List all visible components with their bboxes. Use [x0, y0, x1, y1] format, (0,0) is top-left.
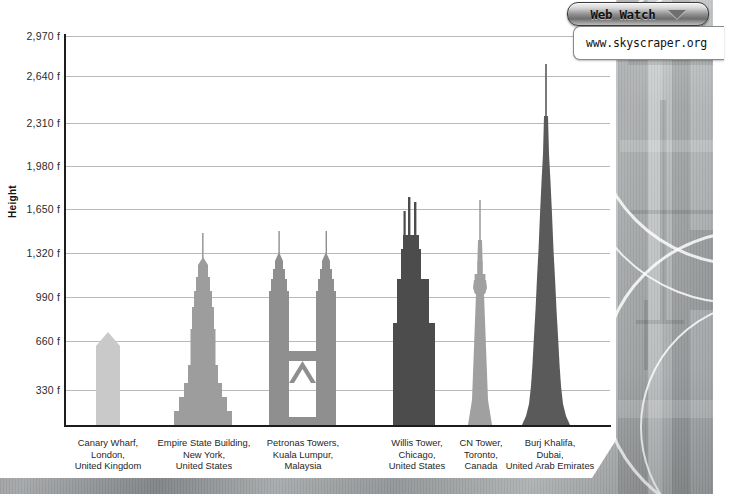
x-label-line: Empire State Building, — [148, 437, 260, 449]
web-watch-label: Web Watch — [590, 7, 655, 22]
x-label-petronas-towers: Petronas Towers, Kuala Lumpur, Malaysia — [253, 437, 353, 472]
x-axis-line — [64, 425, 611, 427]
chart-panel: 2,970 f 2,640 f 2,310 f 1,980 f 1,650 f … — [0, 0, 616, 478]
bar-canary-wharf[interactable] — [92, 330, 124, 425]
x-label-canary-wharf: Canary Wharf, London, United Kingdom — [58, 437, 158, 472]
x-label-line: New York, — [148, 449, 260, 461]
web-watch-button[interactable]: Web Watch — [567, 2, 709, 26]
x-label-line: Kuala Lumpur, — [253, 449, 353, 461]
x-label-line: London, — [58, 449, 158, 461]
x-label-burj-khalifa: Burj Khalifa, Dubai, United Arab Emirate… — [490, 437, 610, 472]
x-label-line: Canary Wharf, — [58, 437, 158, 449]
x-label-line: Malaysia — [253, 460, 353, 472]
chevron-down-icon[interactable] — [668, 10, 686, 19]
bar-cn-tower[interactable] — [466, 200, 494, 425]
x-label-line: United Kingdom — [58, 460, 158, 472]
url-box[interactable]: www.skyscraper.org — [573, 26, 724, 60]
building-silhouettes — [0, 0, 616, 425]
x-label-line: United Arab Emirates — [490, 460, 610, 472]
url-text: www.skyscraper.org — [574, 36, 707, 50]
bar-willis-tower[interactable] — [389, 197, 441, 425]
bar-burj-khalifa[interactable] — [517, 64, 575, 425]
x-label-line: United States — [148, 460, 260, 472]
bar-petronas-towers[interactable] — [263, 231, 343, 425]
x-label-line: Petronas Towers, — [253, 437, 353, 449]
x-label-line: Burj Khalifa, — [490, 437, 610, 449]
x-label-line: Dubai, — [490, 449, 610, 461]
bar-empire-state-building[interactable] — [172, 233, 234, 425]
x-label-empire-state-building: Empire State Building, New York, United … — [148, 437, 260, 472]
